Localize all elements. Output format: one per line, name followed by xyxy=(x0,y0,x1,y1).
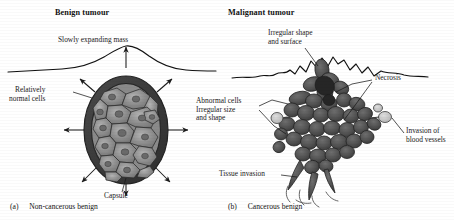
label-capsule: Capsule xyxy=(104,192,128,201)
label-invasion-of-blood-vessels: Invasion of blood vessels xyxy=(406,127,446,144)
label-necrosis: Necrosis xyxy=(375,74,401,83)
benign-tissue-contour xyxy=(8,46,216,72)
label-slowly-expanding-mass: Slowly expanding mass xyxy=(58,36,128,45)
caption-text-a: Non-cancerous benign xyxy=(29,202,98,211)
tumour-comparison-figure: Benign tumour xyxy=(0,0,454,220)
panel-title-malignant: Malignant tumour xyxy=(228,8,294,17)
caption-tag-a: (a) xyxy=(10,202,18,211)
caption-malignant: (b) Cancerous benign xyxy=(228,202,302,211)
caption-tag-b: (b) xyxy=(228,202,237,211)
label-irregular-shape-and-surface: Irregular shape and surface xyxy=(268,29,313,46)
caption-text-b: Cancerous benign xyxy=(248,202,303,211)
caption-benign: (a) Non-cancerous benign xyxy=(10,202,98,211)
label-relatively-normal-cells: Relatively normal cells xyxy=(9,86,45,103)
label-abnormal-cells: Abnormal cells Irregular size and shape xyxy=(196,97,241,123)
label-tissue-invasion: Tissue invasion xyxy=(219,170,265,179)
